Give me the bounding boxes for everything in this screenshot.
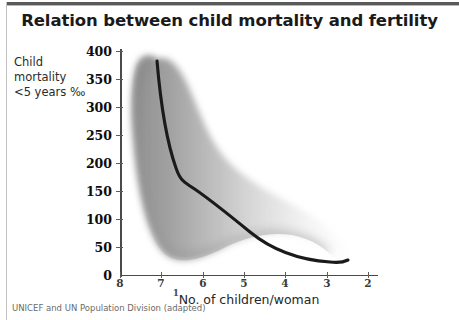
y-axis-tick-labels: 400 350 300 250 200 150 100 50 0 <box>62 0 112 320</box>
x-tick-label-4: 4 <box>273 277 297 289</box>
y-tick-label-250: 250 <box>66 128 112 143</box>
x-tick-label-5: 5 <box>232 277 256 289</box>
y-tick-label-150: 150 <box>66 184 112 199</box>
y-tick-300 <box>116 107 123 108</box>
y-tick-label-350: 350 <box>66 72 112 87</box>
y-tick-400 <box>116 51 123 52</box>
x-tick-label-8: 8 <box>108 277 132 289</box>
y-tick-label-300: 300 <box>66 100 112 115</box>
y-tick-100 <box>116 219 123 220</box>
y-tick-label-100: 100 <box>66 212 112 227</box>
x-tick-label-3: 3 <box>315 277 339 289</box>
y-tick-label-0: 0 <box>66 268 112 283</box>
scatter-cloud-body <box>131 55 353 264</box>
y-tick-150 <box>116 191 123 192</box>
country-scatter-cloud <box>131 54 360 264</box>
scatter-cloud-highlight <box>175 54 360 254</box>
trend-line <box>157 61 348 262</box>
y-tick-label-400: 400 <box>66 44 112 59</box>
source-credit: UNICEF and UN Population Division (adapt… <box>12 303 206 313</box>
x-tick-label-2: 2 <box>356 277 380 289</box>
y-tick-label-50: 50 <box>66 240 112 255</box>
y-tick-label-200: 200 <box>66 156 112 171</box>
x-tick-label-6: 6 <box>191 277 215 289</box>
page-left-border <box>6 2 7 320</box>
y-tick-250 <box>116 135 123 136</box>
y-tick-200 <box>116 163 123 164</box>
y-tick-50 <box>116 247 123 248</box>
y-tick-350 <box>116 79 123 80</box>
scatter-cloud-dense-core <box>135 61 330 263</box>
